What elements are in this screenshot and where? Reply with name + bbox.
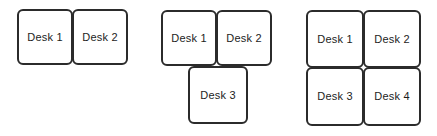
- desk-label: Desk 4: [374, 91, 409, 102]
- desk-box[interactable]: Desk 3: [306, 67, 364, 126]
- desk-label: Desk 3: [317, 91, 352, 102]
- desk-layout-diagram: Desk 1Desk 2Desk 1Desk 2Desk 3Desk 1Desk…: [0, 0, 437, 136]
- desk-label: Desk 2: [374, 34, 409, 45]
- desk-group-four-desk-grid: Desk 1Desk 2Desk 3Desk 4: [0, 0, 437, 136]
- desk-box[interactable]: Desk 2: [363, 10, 421, 68]
- desk-label: Desk 1: [317, 34, 352, 45]
- desk-box[interactable]: Desk 1: [306, 10, 364, 68]
- desk-box[interactable]: Desk 4: [363, 67, 421, 126]
